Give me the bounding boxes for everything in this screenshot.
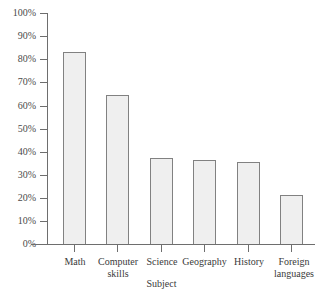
y-axis-tick-label: 80% xyxy=(0,54,36,64)
y-tick-mark xyxy=(40,59,47,60)
y-tick-mark xyxy=(40,198,47,199)
y-axis-tick-label: 20% xyxy=(0,193,36,203)
bar-geography xyxy=(193,160,216,244)
y-axis-line xyxy=(47,13,48,245)
x-axis-title: Subject xyxy=(0,278,323,289)
x-tick-mark xyxy=(117,245,118,252)
x-label-line: Foreign xyxy=(266,256,322,268)
y-axis-tick-label: 10% xyxy=(0,216,36,226)
y-tick-mark xyxy=(40,221,47,222)
x-axis-tick-label-foreign-languages: Foreign languages xyxy=(266,256,322,279)
y-tick-mark xyxy=(40,175,47,176)
x-tick-mark xyxy=(248,245,249,252)
y-axis-tick-label: 40% xyxy=(0,147,36,157)
bar-math xyxy=(63,52,86,244)
y-tick-mark xyxy=(40,82,47,83)
y-axis-tick-label: 90% xyxy=(0,31,36,41)
bar-computer-skills xyxy=(106,95,129,244)
y-tick-mark xyxy=(40,129,47,130)
y-tick-mark xyxy=(40,152,47,153)
y-tick-mark xyxy=(40,106,47,107)
y-axis-tick-label: 100% xyxy=(0,8,36,18)
bar-science xyxy=(150,158,173,244)
bar-history xyxy=(237,162,260,244)
x-tick-mark xyxy=(161,245,162,252)
y-tick-mark xyxy=(40,36,47,37)
y-tick-mark xyxy=(40,13,47,14)
y-axis-tick-label: 30% xyxy=(0,170,36,180)
bar-chart: 100% 90% 80% 70% 60% 50% 40% 30% 20% 10%… xyxy=(0,0,323,294)
y-axis-tick-label: 50% xyxy=(0,124,36,134)
x-tick-mark xyxy=(204,245,205,252)
x-tick-mark xyxy=(291,245,292,252)
bar-foreign-languages xyxy=(280,195,303,244)
y-axis-tick-label: 60% xyxy=(0,101,36,111)
x-tick-mark xyxy=(74,245,75,252)
y-axis-tick-label: 70% xyxy=(0,77,36,87)
